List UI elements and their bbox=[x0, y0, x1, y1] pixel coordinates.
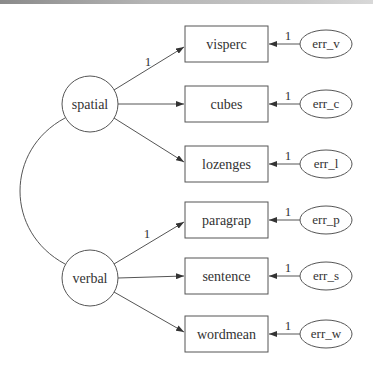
observed-visperc[interactable]: visperc bbox=[185, 26, 268, 62]
latent-spatial[interactable]: spatial bbox=[62, 76, 118, 132]
error-err_l[interactable]: 1 err_l bbox=[269, 148, 352, 178]
path-spatial-lozenges[interactable] bbox=[114, 118, 184, 162]
covariance-spatial-verbal[interactable] bbox=[20, 118, 65, 264]
error-label-err_w: err_w bbox=[311, 326, 342, 341]
observed-paragrap-label: paragrap bbox=[202, 213, 251, 228]
observed-lozenges-label: lozenges bbox=[202, 157, 251, 172]
error-err_c[interactable]: 1 err_c bbox=[269, 88, 352, 118]
error-weight-err_c: 1 bbox=[285, 88, 292, 103]
observed-cubes-label: cubes bbox=[211, 97, 243, 112]
error-label-err_c: err_c bbox=[313, 96, 340, 111]
loading-label-visperc: 1 bbox=[145, 54, 152, 69]
error-weight-err_p: 1 bbox=[285, 204, 292, 219]
observed-wordmean[interactable]: wordmean bbox=[185, 316, 268, 352]
error-err_v[interactable]: 1 err_v bbox=[269, 28, 352, 58]
error-weight-err_w: 1 bbox=[285, 318, 292, 333]
error-err_p[interactable]: 1 err_p bbox=[269, 204, 352, 234]
observed-visperc-label: visperc bbox=[206, 37, 246, 52]
latent-verbal[interactable]: verbal bbox=[62, 250, 118, 306]
observed-cubes[interactable]: cubes bbox=[185, 86, 268, 122]
error-label-err_p: err_p bbox=[312, 212, 339, 227]
observed-sentence[interactable]: sentence bbox=[185, 258, 268, 294]
path-verbal-sentence[interactable] bbox=[118, 276, 184, 278]
error-err_s[interactable]: 1 err_s bbox=[269, 260, 352, 290]
latent-spatial-label: spatial bbox=[72, 97, 109, 112]
error-label-err_s: err_s bbox=[313, 268, 339, 283]
observed-paragrap[interactable]: paragrap bbox=[185, 202, 268, 238]
error-label-err_v: err_v bbox=[312, 36, 340, 51]
loading-label-paragrap: 1 bbox=[144, 226, 151, 241]
observed-wordmean-label: wordmean bbox=[197, 327, 256, 342]
sem-diagram: spatial verbal 1 1 visperc cubes lozenge… bbox=[0, 0, 373, 370]
path-verbal-wordmean[interactable] bbox=[114, 292, 184, 332]
error-label-err_l: err_l bbox=[314, 156, 339, 171]
observed-sentence-label: sentence bbox=[202, 269, 250, 284]
observed-lozenges[interactable]: lozenges bbox=[185, 146, 268, 182]
latent-verbal-label: verbal bbox=[73, 271, 108, 286]
error-err_w[interactable]: 1 err_w bbox=[269, 318, 352, 348]
error-weight-err_l: 1 bbox=[285, 148, 292, 163]
error-weight-err_v: 1 bbox=[285, 28, 292, 43]
error-weight-err_s: 1 bbox=[285, 260, 292, 275]
